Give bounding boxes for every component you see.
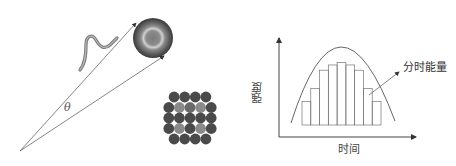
fiber-core: [179, 134, 190, 145]
intensity-time-chart: 强度 时间 分时能量: [228, 0, 456, 166]
fiber-core: [201, 134, 212, 145]
y-axis-label: 强度: [251, 82, 265, 104]
fiber-core: [185, 102, 196, 113]
fiber-core: [174, 113, 185, 124]
bar: [328, 65, 337, 125]
fiber-core: [179, 92, 190, 103]
beam-geometry-svg: [0, 0, 228, 166]
fiber-core: [163, 113, 174, 124]
fiber-core: [195, 123, 206, 134]
beam-geometry-diagram: θ: [0, 0, 228, 166]
fiber-core: [206, 102, 217, 113]
fiber-core: [169, 134, 180, 145]
envelope-curve: [291, 47, 395, 123]
fiber-core: [185, 113, 196, 124]
fiber-core: [195, 102, 206, 113]
bar: [337, 62, 346, 125]
fiber-core: [185, 123, 196, 134]
fiber-core: [206, 113, 217, 124]
fiber-core: [195, 113, 206, 124]
bar: [355, 70, 364, 125]
x-axis-label: 时间: [338, 140, 360, 156]
fiber-core: [163, 102, 174, 113]
bar: [346, 65, 355, 125]
fiber-core: [201, 92, 212, 103]
fiber-core: [174, 123, 185, 134]
fiber-core: [190, 92, 201, 103]
lower-ray-line: [20, 56, 164, 151]
upper-ray-line: [20, 23, 136, 151]
fiber-core: [174, 102, 185, 113]
fiber-core: [169, 92, 180, 103]
bars-group: [302, 62, 381, 125]
target-sphere: [133, 18, 173, 58]
angle-theta-label: θ: [64, 101, 71, 114]
fiber-core: [190, 134, 201, 145]
bar: [320, 70, 329, 125]
fiber-core: [163, 123, 174, 134]
bar: [311, 88, 320, 125]
bar: [302, 102, 311, 125]
annotation-label: 分时能量: [403, 58, 447, 74]
fiber-core: [206, 123, 217, 134]
fiber-bundle: [163, 92, 216, 145]
annotation-arrow: [369, 72, 399, 95]
bar: [372, 102, 381, 125]
